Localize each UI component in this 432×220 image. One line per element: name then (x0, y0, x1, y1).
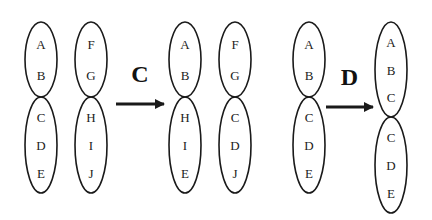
gene-label: H (180, 110, 189, 125)
chromosome: FGHIJ (75, 22, 107, 193)
gene-label: J (232, 166, 237, 181)
gene-label: A (304, 37, 314, 52)
transition-C: C (116, 61, 164, 104)
chromosome-diagram: ABCDEFGHIJABHIEFGCDJABCDEABCCDE CD (0, 0, 432, 220)
chromosome-upper-arm (169, 22, 201, 97)
transition-D: D (326, 64, 373, 107)
chromosome: ABCDE (293, 22, 325, 193)
gene-label: E (387, 186, 395, 201)
gene-label: I (183, 138, 187, 153)
gene-label: D (36, 138, 45, 153)
gene-label: A (386, 35, 396, 50)
gene-label: H (86, 110, 95, 125)
gene-label: E (181, 166, 189, 181)
gene-label: A (36, 37, 46, 52)
gene-label: G (230, 68, 239, 83)
gene-label: I (89, 138, 93, 153)
chromosome: ABCCDE (375, 22, 407, 213)
gene-label: B (37, 68, 46, 83)
gene-label: F (87, 37, 94, 52)
gene-label: C (37, 110, 46, 125)
chromosomes-group: ABCDEFGHIJABHIEFGCDJABCDEABCCDE (25, 22, 407, 213)
chromosome: FGCDJ (219, 22, 251, 193)
gene-label: E (305, 166, 313, 181)
transition-label: C (131, 61, 148, 87)
gene-label: E (37, 166, 45, 181)
gene-label: B (305, 68, 314, 83)
chromosome-upper-arm (25, 22, 57, 97)
gene-label: A (180, 37, 190, 52)
chromosome: ABCDE (25, 22, 57, 193)
gene-label: F (231, 37, 238, 52)
gene-label: G (86, 68, 95, 83)
panel-before-D: ABCDE (293, 22, 325, 193)
gene-label: D (386, 158, 395, 173)
gene-label: B (181, 68, 190, 83)
gene-label: D (304, 138, 313, 153)
transition-label: D (341, 64, 358, 90)
panel-before-C: ABCDEFGHIJ (25, 22, 107, 193)
chromosome-upper-arm (293, 22, 325, 97)
panel-after-D: ABCCDE (375, 22, 407, 213)
gene-label: C (387, 90, 396, 105)
gene-label: B (387, 63, 396, 78)
gene-label: D (230, 138, 239, 153)
chromosome-upper-arm (219, 22, 251, 97)
transitions-group: CD (116, 61, 373, 107)
gene-label: C (387, 130, 396, 145)
chromosome-upper-arm (75, 22, 107, 97)
panel-after-C: ABHIEFGCDJ (169, 22, 251, 193)
gene-label: C (231, 110, 240, 125)
chromosome: ABHIE (169, 22, 201, 193)
gene-label: J (88, 166, 93, 181)
gene-label: C (305, 110, 314, 125)
